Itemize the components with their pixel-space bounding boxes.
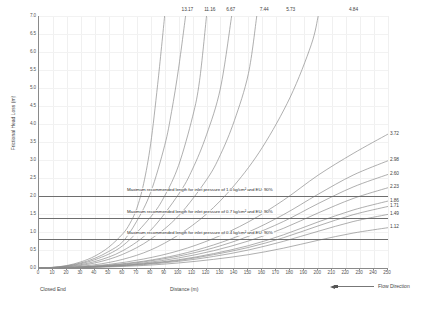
x-tick-mark	[206, 268, 207, 270]
x-tick-label: 250	[376, 271, 398, 276]
curve-right-label-1.71: 1.71	[390, 204, 414, 209]
threshold-annotation: Maximum recommended length for inlet pre…	[126, 231, 274, 235]
plot-area: Maximum recommended length for inlet pre…	[38, 16, 388, 269]
x-tick-mark	[178, 268, 179, 270]
curve-top-label-6.67: 6.67	[219, 8, 243, 13]
x-tick-mark	[261, 268, 262, 270]
curve-right-label-2.60: 2.60	[390, 172, 414, 177]
y-axis-title: Frictional Head Loss (m)	[10, 58, 16, 188]
legend-label-flow-direction: Flow Direction	[378, 283, 410, 289]
x-tick-mark	[219, 268, 220, 270]
x-tick-mark	[303, 268, 304, 270]
y-tick-label: 0.0	[10, 266, 36, 271]
x-tick-mark	[108, 268, 109, 270]
x-tick-mark	[136, 268, 137, 270]
curve-right-label-1.49: 1.49	[390, 212, 414, 217]
y-tick-label: 1.5	[10, 212, 36, 217]
threshold-annotation: Maximum recommended length for inlet pre…	[126, 210, 274, 214]
y-tick-label: 1.0	[10, 230, 36, 235]
x-tick-mark	[80, 268, 81, 270]
curve-top-label-4.84: 4.84	[341, 8, 365, 13]
x-tick-mark	[150, 268, 151, 270]
y-tick-label: 7.0	[10, 14, 36, 19]
curve-right-label-3.72: 3.72	[390, 132, 414, 137]
x-axis-title: Distance (m)	[170, 286, 198, 292]
x-tick-mark	[233, 268, 234, 270]
x-tick-mark	[52, 268, 53, 270]
y-tick-label: 6.0	[10, 50, 36, 55]
x-tick-mark	[289, 268, 290, 270]
x-tick-mark	[387, 268, 388, 270]
curve-top-label-5.73: 5.73	[279, 8, 303, 13]
x-tick-mark	[192, 268, 193, 270]
curve-top-label-13.17: 13.17	[175, 8, 199, 13]
x-tick-mark	[122, 268, 123, 270]
x-tick-mark	[331, 268, 332, 270]
x-tick-mark	[94, 268, 95, 270]
threshold-line	[39, 196, 388, 197]
x-tick-mark	[66, 268, 67, 270]
y-tick-label: 6.5	[10, 32, 36, 37]
x-tick-mark	[38, 268, 39, 270]
x-tick-mark	[373, 268, 374, 270]
threshold-layer: Maximum recommended length for inlet pre…	[39, 16, 388, 268]
x-tick-mark	[345, 268, 346, 270]
closed-end-label: Closed End	[40, 286, 66, 292]
flow-direction-arrow-icon	[330, 284, 374, 289]
x-tick-mark	[247, 268, 248, 270]
x-tick-mark	[275, 268, 276, 270]
x-tick-mark	[317, 268, 318, 270]
y-tick-label: 0.5	[10, 248, 36, 253]
threshold-line	[39, 239, 388, 240]
chart-figure: Maximum recommended length for inlet pre…	[0, 0, 427, 313]
threshold-line	[39, 218, 388, 219]
x-tick-mark	[359, 268, 360, 270]
curve-top-label-7.44: 7.44	[252, 8, 276, 13]
threshold-annotation: Maximum recommended length for inlet pre…	[126, 188, 274, 192]
curve-right-label-1.12: 1.12	[390, 225, 414, 230]
x-gridline	[388, 16, 389, 268]
x-tick-mark	[164, 268, 165, 270]
y-tick-label: 2.0	[10, 194, 36, 199]
curve-right-label-2.23: 2.23	[390, 185, 414, 190]
legend: Flow Direction	[330, 283, 410, 289]
curve-right-label-2.98: 2.98	[390, 158, 414, 163]
